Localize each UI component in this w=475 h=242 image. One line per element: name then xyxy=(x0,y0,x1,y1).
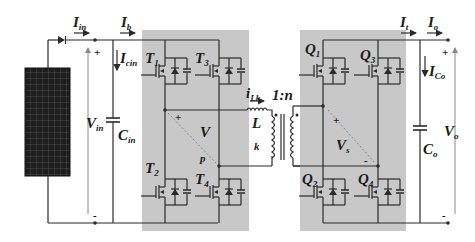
label-p: p xyxy=(199,152,206,164)
label-io: Io xyxy=(427,14,439,32)
label-ratio: 1:n xyxy=(272,87,293,103)
label-vo-minus: - xyxy=(442,209,446,221)
label-icin: Icin xyxy=(119,50,137,68)
circuit-svg: Iin Ib Icin + - Vin Cin T1 T3 T2 T4 + V … xyxy=(0,0,475,242)
label-vo: Vo xyxy=(444,123,459,141)
label-cin: Cin xyxy=(118,127,136,145)
solar-panel-icon xyxy=(25,68,70,176)
label-vo-plus: + xyxy=(442,46,448,58)
label-co: Co xyxy=(423,141,438,159)
label-ico: ICo xyxy=(428,63,446,81)
label-vin-minus: - xyxy=(93,209,97,221)
label-l: L xyxy=(251,115,261,131)
input-diode-icon xyxy=(58,36,65,44)
label-ilk: iLk xyxy=(246,85,261,103)
label-vs-minus: - xyxy=(364,154,368,166)
label-vs-plus: + xyxy=(333,114,339,126)
label-vin-plus: + xyxy=(94,46,100,58)
dab-circuit-diagram: Iin Ib Icin + - Vin Cin T1 T3 T2 T4 + V … xyxy=(0,0,475,242)
label-iin: Iin xyxy=(72,14,86,32)
label-k: k xyxy=(254,140,260,152)
label-ib: Ib xyxy=(120,14,132,32)
label-it: It xyxy=(399,14,409,32)
label-vin: Vin xyxy=(86,115,104,133)
label-v-plus: + xyxy=(175,111,181,123)
secondary-bridge-bg xyxy=(300,30,406,231)
